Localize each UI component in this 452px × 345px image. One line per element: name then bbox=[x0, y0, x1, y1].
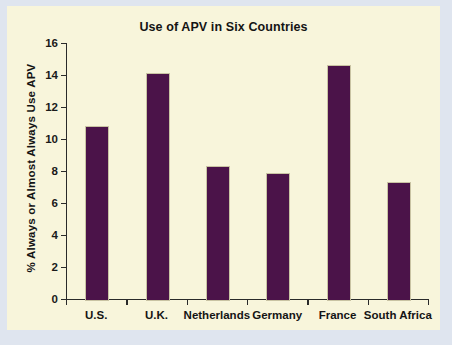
x-tick-mark bbox=[368, 299, 369, 305]
x-tick-mark bbox=[126, 299, 127, 305]
y-tick-mark bbox=[61, 171, 66, 172]
x-tick-label: South Africa bbox=[364, 309, 432, 321]
bar bbox=[266, 173, 290, 301]
bar bbox=[206, 166, 230, 301]
y-tick-label: 16 bbox=[45, 37, 58, 49]
x-tick-mark bbox=[187, 299, 188, 305]
x-tick-label: Germany bbox=[252, 309, 302, 321]
chart-panel: Use of APV in Six Countries % Always or … bbox=[7, 6, 440, 330]
y-tick-mark bbox=[61, 75, 66, 76]
bar bbox=[327, 65, 351, 301]
y-tick-mark bbox=[61, 203, 66, 204]
x-tick-mark bbox=[66, 299, 67, 305]
y-tick-label: 10 bbox=[45, 133, 58, 145]
y-tick-mark bbox=[61, 43, 66, 44]
y-tick-label: 4 bbox=[52, 229, 58, 241]
y-tick-mark bbox=[61, 107, 66, 108]
bar bbox=[85, 126, 109, 301]
chart-title: Use of APV in Six Countries bbox=[7, 20, 440, 34]
figure-canvas: Use of APV in Six Countries % Always or … bbox=[0, 0, 452, 345]
y-tick-label: 8 bbox=[52, 165, 58, 177]
x-tick-label: France bbox=[319, 309, 357, 321]
x-tick-label: U.K. bbox=[145, 309, 168, 321]
y-axis-line bbox=[66, 43, 67, 300]
bar bbox=[387, 182, 411, 301]
x-tick-label: U.S. bbox=[85, 309, 107, 321]
y-axis-title: % Always or Almost Always Use APV bbox=[25, 64, 37, 273]
y-tick-mark bbox=[61, 139, 66, 140]
y-tick-mark bbox=[61, 267, 66, 268]
x-tick-mark bbox=[307, 299, 308, 305]
x-tick-mark bbox=[428, 299, 429, 305]
y-tick-label: 12 bbox=[45, 101, 58, 113]
y-tick-mark bbox=[61, 235, 66, 236]
y-tick-label: 14 bbox=[45, 69, 58, 81]
y-tick-label: 0 bbox=[52, 293, 58, 305]
x-tick-mark bbox=[247, 299, 248, 305]
x-tick-label: Netherlands bbox=[184, 309, 250, 321]
plot-area: 0246810121416 U.S.U.K.NetherlandsGermany… bbox=[66, 43, 428, 299]
y-tick-label: 2 bbox=[52, 261, 58, 273]
y-tick-label: 6 bbox=[52, 197, 58, 209]
bar bbox=[146, 73, 170, 301]
